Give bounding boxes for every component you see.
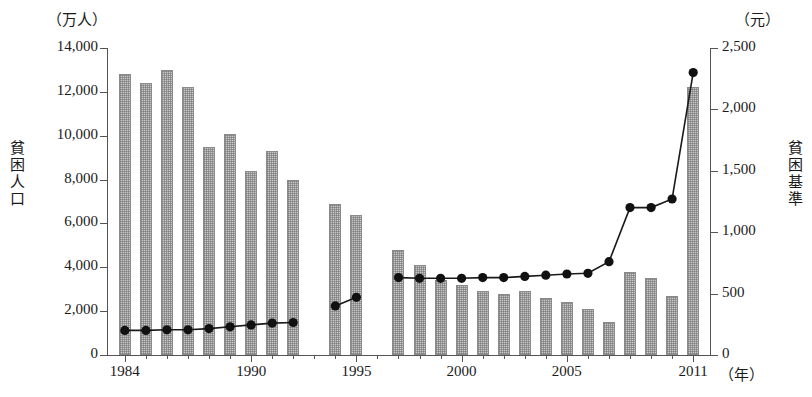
data-point [457, 274, 466, 283]
data-point [394, 273, 403, 282]
data-point [226, 322, 235, 331]
right-tick-label: 2,500 [722, 38, 792, 55]
x-tick-label: 1995 [341, 363, 371, 380]
left-tick [100, 355, 107, 356]
left-axis-unit: （万人） [47, 8, 107, 29]
data-point [268, 319, 277, 328]
x-tick [525, 355, 526, 359]
data-point [668, 194, 677, 203]
poverty-chart: （万人） （元） 貧困人口 貧困基準 14,00012,00010,0008,0… [0, 0, 812, 397]
right-tick [711, 355, 718, 356]
right-tick [711, 232, 718, 233]
right-tick [711, 48, 718, 49]
x-tick [251, 355, 252, 362]
left-tick-label: 12,000 [0, 82, 98, 99]
x-tick [188, 355, 189, 359]
left-tick-label: 14,000 [0, 38, 98, 55]
data-point [289, 318, 298, 327]
left-tick [100, 180, 107, 181]
right-tick [711, 109, 718, 110]
data-point [162, 325, 171, 334]
x-tick [693, 355, 694, 362]
x-tick [588, 355, 589, 359]
right-tick-label: 500 [722, 284, 792, 301]
data-point [415, 274, 424, 283]
x-tick-label: 1984 [110, 363, 140, 380]
data-point [604, 257, 613, 266]
left-tick [100, 136, 107, 137]
data-point [204, 324, 213, 333]
x-tick [504, 355, 505, 359]
data-point [647, 203, 656, 212]
data-point [520, 272, 529, 281]
data-point [247, 320, 256, 329]
x-tick [567, 355, 568, 362]
left-tick-label: 4,000 [0, 257, 98, 274]
data-point [436, 274, 445, 283]
left-tick [100, 311, 107, 312]
data-point [120, 326, 129, 335]
data-point [478, 273, 487, 282]
x-tick [125, 355, 126, 362]
right-axis-line [710, 48, 711, 356]
left-tick-label: 10,000 [0, 126, 98, 143]
x-tick [398, 355, 399, 359]
left-tick [100, 92, 107, 93]
left-tick-label: 8,000 [0, 170, 98, 187]
line-series [108, 48, 710, 355]
x-tick [546, 355, 547, 359]
x-tick [230, 355, 231, 359]
x-tick [441, 355, 442, 359]
x-tick [272, 355, 273, 359]
x-tick [462, 355, 463, 362]
x-axis-unit: （年） [719, 363, 764, 384]
left-tick-label: 0 [0, 345, 98, 362]
left-tick-label: 6,000 [0, 213, 98, 230]
x-tick [167, 355, 168, 359]
data-point [331, 301, 340, 310]
x-tick [377, 355, 378, 359]
line-path [399, 73, 694, 279]
data-point [541, 271, 550, 280]
data-point [183, 325, 192, 334]
data-point [352, 293, 361, 302]
x-tick [293, 355, 294, 359]
x-tick [209, 355, 210, 359]
x-tick [146, 355, 147, 359]
x-tick [651, 355, 652, 359]
left-tick [100, 48, 107, 49]
data-point [562, 269, 571, 278]
x-tick-label: 1990 [236, 363, 266, 380]
left-tick [100, 223, 107, 224]
x-tick [609, 355, 610, 359]
right-tick-label: 1,500 [722, 161, 792, 178]
data-point [689, 68, 698, 77]
x-tick [335, 355, 336, 359]
x-tick [420, 355, 421, 359]
right-tick-label: 1,000 [722, 222, 792, 239]
left-tick-label: 2,000 [0, 301, 98, 318]
x-tick-label: 2005 [552, 363, 582, 380]
x-tick [630, 355, 631, 359]
right-tick [711, 294, 718, 295]
x-tick-label: 2011 [678, 363, 707, 380]
plot-area [108, 48, 710, 355]
right-axis-unit: （元） [735, 8, 780, 29]
x-tick [314, 355, 315, 359]
data-point [141, 326, 150, 335]
x-tick [356, 355, 357, 362]
data-point [499, 273, 508, 282]
x-tick-label: 2000 [447, 363, 477, 380]
x-tick [483, 355, 484, 359]
data-point [625, 203, 634, 212]
right-tick [711, 171, 718, 172]
x-tick [672, 355, 673, 359]
left-tick [100, 267, 107, 268]
right-tick-label: 2,000 [722, 99, 792, 116]
right-tick-label: 0 [722, 345, 792, 362]
x-axis-line [107, 355, 711, 356]
data-point [583, 269, 592, 278]
